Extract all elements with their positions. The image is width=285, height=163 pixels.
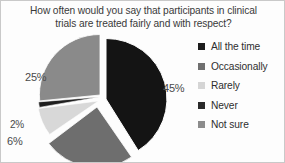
legend-swatch-icon — [198, 63, 205, 70]
legend-label: Occasionally — [211, 61, 268, 72]
chart-title-line-2: trials are treated fairly and with respe… — [5, 17, 282, 30]
legend-item-occasionally[interactable]: Occasionally — [198, 57, 284, 77]
pie-value-label-all-the-time: 45% — [163, 82, 184, 94]
pie-value-label-not-sure: 25% — [25, 71, 46, 83]
pie-slice-not-sure[interactable] — [39, 34, 100, 100]
pie-chart-figure: How often would you say that participant… — [0, 0, 285, 163]
legend-label: Rarely — [211, 80, 240, 91]
legend-item-not-sure[interactable]: Not sure — [198, 115, 284, 135]
legend-item-rarely[interactable]: Rarely — [198, 76, 284, 96]
legend-swatch-icon — [198, 121, 205, 128]
legend-swatch-icon — [198, 43, 205, 50]
legend-label: Not sure — [211, 119, 249, 130]
legend-label: All the time — [211, 41, 260, 52]
pie-value-label-rarely: 6% — [7, 135, 23, 147]
chart-title-line-1: How often would you say that participant… — [5, 4, 282, 17]
chart-title: How often would you say that participant… — [5, 4, 282, 30]
pie-plot-area: 45% 22% 6% 2% 25% — [1, 31, 193, 163]
legend-swatch-icon — [198, 102, 205, 109]
pie-svg — [1, 31, 193, 163]
legend-swatch-icon — [198, 82, 205, 89]
chart-legend: All the time Occasionally Rarely Never N… — [198, 37, 284, 135]
legend-label: Never — [211, 100, 238, 111]
legend-item-all-the-time[interactable]: All the time — [198, 37, 284, 57]
pie-value-label-never: 2% — [10, 119, 24, 130]
legend-item-never[interactable]: Never — [198, 96, 284, 116]
